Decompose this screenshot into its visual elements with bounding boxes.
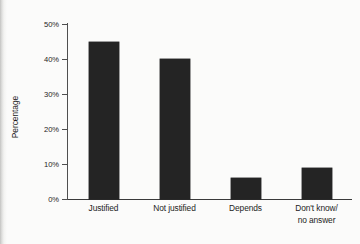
y-axis-tick	[62, 199, 68, 200]
x-axis-tick-label: Not justified	[153, 203, 195, 215]
plot-area	[68, 24, 352, 199]
y-axis-tick-label: 0%	[48, 195, 59, 204]
x-axis-tick-label-line: Justified	[89, 203, 119, 215]
y-axis-tick-label: 50%	[44, 20, 59, 29]
y-axis-tick-label: 30%	[44, 90, 59, 99]
x-axis-tick-label-line: no answer	[295, 215, 337, 227]
x-axis-line	[67, 199, 352, 200]
bar	[231, 178, 261, 199]
bar	[160, 59, 190, 199]
page-scan-edge-soft	[4, 0, 7, 244]
y-axis-tick-label: 40%	[44, 55, 59, 64]
x-axis-tick-label-line: Don't know/	[295, 203, 337, 215]
y-axis-tick-label: 20%	[44, 125, 59, 134]
bar-chart-figure: Percentage 0%10%20%30%40%50% JustifiedNo…	[0, 0, 360, 244]
bar	[89, 42, 119, 200]
x-axis-tick-label: Depends	[229, 203, 262, 215]
bar	[302, 168, 332, 200]
x-axis-tick-label-line: Not justified	[153, 203, 195, 215]
y-axis-tick-label: 10%	[44, 160, 59, 169]
x-axis-tick-label: Justified	[89, 203, 119, 215]
x-axis-tick-label-line: Depends	[229, 203, 262, 215]
y-axis-title: Percentage	[10, 96, 20, 138]
x-axis-tick-label: Don't know/no answer	[295, 203, 337, 226]
